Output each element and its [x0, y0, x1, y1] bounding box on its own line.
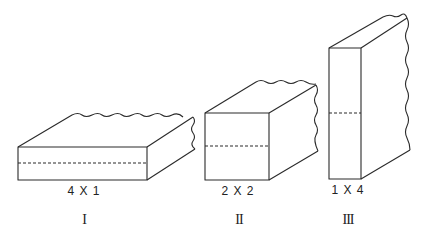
block-II-numeral: II [235, 212, 242, 228]
block-II [205, 81, 318, 181]
block-I-wavy-side-edge [192, 117, 196, 149]
block-III-bottom-right-edge [361, 150, 410, 179]
block-II-dimension-label: 2 X 2 [221, 184, 254, 198]
block-II-bottom-right-edge [269, 151, 318, 180]
block-III-wavy-back-edge [383, 14, 407, 18]
block-I-top-right-edge [147, 117, 193, 147]
block-I-wavy-back-edge [72, 114, 183, 118]
block-III [329, 14, 410, 179]
diagram-drawing [0, 0, 430, 242]
beam-cross-section-diagram: 4 X 1 2 X 2 1 X 4 I II III [0, 0, 430, 242]
block-I-dimension-label: 4 X 1 [67, 184, 100, 198]
block-I-numeral: I [82, 212, 86, 228]
block-II-wavy-back-edge [256, 81, 316, 85]
block-III-top-left-edge [329, 17, 383, 48]
block-III-dimension-label: 1 X 4 [331, 183, 364, 197]
block-II-wavy-side-edge [315, 85, 319, 151]
block-III-wavy-side-edge [406, 18, 411, 150]
block-III-top-right-edge [361, 18, 407, 48]
block-I [18, 114, 195, 181]
block-III-numeral: III [343, 212, 354, 228]
block-I-bottom-right-edge [147, 149, 195, 180]
block-I-top-left-edge [18, 115, 72, 147]
block-I-front-face [18, 147, 147, 180]
block-II-top-right-edge [269, 85, 316, 113]
block-II-top-left-edge [205, 82, 256, 113]
